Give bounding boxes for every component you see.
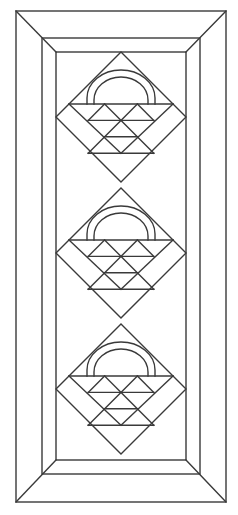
quilt-pattern-diagram (0, 0, 238, 515)
